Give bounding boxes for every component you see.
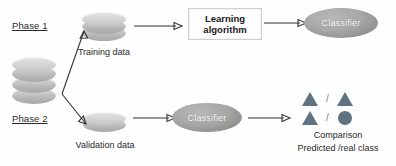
arrow-training-to-algorithm [134, 20, 184, 32]
arrow-algorithm-to-classifier [264, 17, 308, 29]
triangle-predicted-1 [302, 92, 318, 106]
validation-data-label: Validation data [70, 140, 140, 150]
learning-algorithm-box[interactable]: Learning algorithm [188, 8, 262, 40]
learning-algorithm-line2: algorithm [203, 24, 246, 35]
comparison-caption-line1: Comparison [280, 130, 396, 140]
row-1-separator: / [326, 93, 329, 104]
phase-1-label: Phase 1 [12, 20, 48, 31]
learning-algorithm-line1: Learning [205, 13, 245, 24]
classifier-top-label: Classifier [321, 18, 360, 28]
triangle-real-1 [337, 92, 353, 106]
comparison-row-1: / [302, 89, 353, 108]
phase-2-label: Phase 2 [12, 113, 48, 124]
arrow-validation-to-classifier [133, 112, 177, 124]
diagram-canvas: Phase 1 Phase 2 Training data Validation… [0, 0, 396, 166]
triangle-predicted-2 [302, 111, 318, 125]
comparison-caption-line2: Predicted /real class [280, 143, 396, 153]
comparison-row-2: / [302, 108, 353, 127]
classifier-bottom[interactable]: Classifier [172, 103, 242, 132]
split-arrows [50, 22, 112, 132]
classifier-top[interactable]: Classifier [304, 8, 378, 38]
arrow-classifier-to-comparison [248, 112, 292, 124]
classifier-bottom-label: Classifier [187, 113, 226, 123]
row-2-separator: / [326, 112, 329, 123]
circle-real-2 [338, 111, 352, 125]
comparison-shapes: / / [302, 89, 353, 127]
